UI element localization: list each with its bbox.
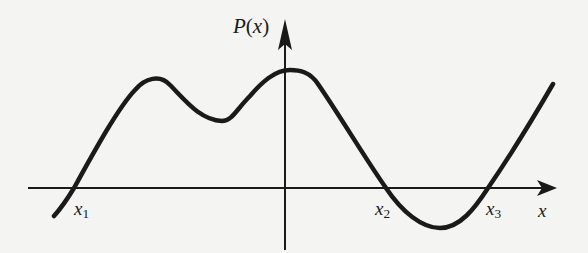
root-subscript: 1 (82, 206, 89, 221)
root-subscript: 3 (494, 206, 501, 221)
polynomial-curve (54, 70, 553, 228)
y-axis-label: P(x) (233, 16, 269, 37)
y-axis-label-var: x (253, 14, 262, 38)
polynomial-graph: P(x) x1 x2 x3 x (0, 0, 588, 253)
root-label-x3: x3 (486, 199, 501, 221)
root-label-x2: x2 (375, 199, 390, 221)
x-axis-label: x (538, 201, 546, 220)
root-subscript: 2 (383, 206, 390, 221)
y-axis-label-open: ( (246, 14, 253, 38)
y-axis-label-func: P (233, 14, 246, 38)
root-label-x1: x1 (74, 199, 89, 221)
y-axis-label-close: ) (262, 14, 269, 38)
